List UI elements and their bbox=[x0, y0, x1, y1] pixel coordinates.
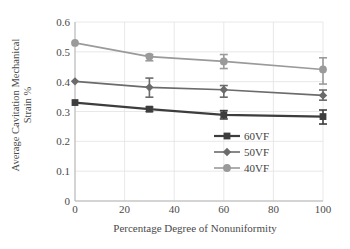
series-line-60vf bbox=[75, 103, 323, 117]
legend-label-40vf[interactable]: 40VF bbox=[244, 162, 269, 174]
legend-marker-40vf bbox=[223, 164, 231, 172]
data-point-40vf[interactable] bbox=[71, 39, 79, 47]
data-point-50vf[interactable] bbox=[220, 86, 228, 94]
chart-figure: Average Cavitation Mechanical Strain % 0… bbox=[0, 0, 350, 249]
data-point-60vf[interactable] bbox=[72, 99, 79, 106]
x-tick-label: 0 bbox=[72, 203, 78, 215]
x-tick-label: 40 bbox=[169, 203, 180, 215]
data-point-40vf[interactable] bbox=[319, 66, 327, 74]
legend-marker-60vf bbox=[224, 133, 231, 140]
series-line-40vf bbox=[75, 43, 323, 70]
data-point-50vf[interactable] bbox=[145, 83, 153, 91]
data-point-50vf[interactable] bbox=[71, 77, 79, 85]
x-tick-label: 60 bbox=[218, 203, 229, 215]
data-point-50vf[interactable] bbox=[319, 91, 327, 99]
series-line-50vf bbox=[75, 81, 323, 95]
data-point-60vf[interactable] bbox=[320, 113, 327, 120]
x-tick-label: 80 bbox=[268, 203, 279, 215]
x-axis-title: Percentage Degree of Nonuniformity bbox=[0, 222, 350, 234]
x-tick-label: 20 bbox=[119, 203, 130, 215]
data-point-60vf[interactable] bbox=[146, 106, 153, 113]
legend-label-50vf[interactable]: 50VF bbox=[244, 146, 269, 158]
data-point-60vf[interactable] bbox=[220, 111, 227, 118]
x-axis-tick-labels: 020406080100 bbox=[0, 203, 350, 219]
x-axis-title-text: Percentage Degree of Nonuniformity bbox=[0, 222, 350, 234]
data-point-40vf[interactable] bbox=[146, 53, 154, 61]
legend-label-60vf[interactable]: 60VF bbox=[244, 130, 269, 142]
x-tick-label: 100 bbox=[315, 203, 332, 215]
data-point-40vf[interactable] bbox=[220, 57, 228, 65]
